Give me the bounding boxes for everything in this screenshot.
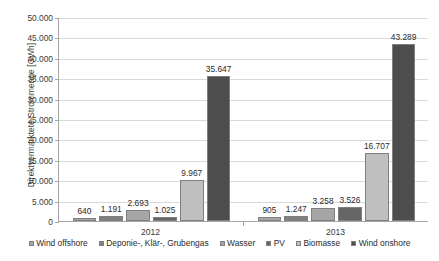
gridline [59,38,428,39]
y-axis-tick [55,222,59,223]
bar-value-label: 905 [262,205,276,215]
legend-item[interactable]: Wasser [220,238,256,248]
legend-item[interactable]: Biomasse [296,238,340,248]
y-axis-tick-label: 50.000 [27,13,53,23]
y-axis-tick-label: 35.000 [27,74,53,84]
bar-value-label: 1.191 [101,204,122,214]
legend-label: PV [274,238,285,248]
bar [258,217,282,221]
y-axis-tick [55,140,59,141]
gridline [59,120,428,121]
bar [126,210,150,221]
y-axis-tick [55,59,59,60]
gridline [59,79,428,80]
legend-swatch-icon [29,241,34,246]
y-axis-tick [55,100,59,101]
chart-legend: Wind offshoreDeponie-, Klär-, GrubengasW… [0,238,439,248]
y-axis-tick [55,18,59,19]
bar-value-label: 16.707 [364,141,390,151]
y-axis-tick-label: 30.000 [27,95,53,105]
bar [365,153,389,221]
bar-value-label: 640 [77,206,91,216]
bar [338,207,362,221]
bar-chart: Direktvermarktete Strommenge [GWh] 50.00… [0,0,439,261]
bar-value-label: 2.693 [128,198,149,208]
y-axis-tick-label: 0 [48,217,53,227]
y-axis-tick-label: 10.000 [27,176,53,186]
bar-value-label: 3.526 [339,195,360,205]
y-axis-tick [55,202,59,203]
bar [73,218,97,221]
gridline [59,59,428,60]
legend-swatch-icon [99,241,104,246]
bar-value-label: 43.289 [391,32,417,42]
bar [180,180,204,221]
gridline [59,18,428,19]
y-axis-tick [55,181,59,182]
y-axis-tick [55,120,59,121]
bar [284,216,308,221]
x-axis-category-label: 2012 [141,227,160,237]
x-axis-category-label: 2013 [326,227,345,237]
bar-value-label: 3.258 [313,196,334,206]
gridline [59,100,428,101]
y-axis-tick-label: 5.000 [32,197,53,207]
legend-label: Wasser [227,238,255,248]
y-axis-tick [55,38,59,39]
legend-swatch-icon [220,241,225,246]
legend-item[interactable]: Wind offshore [29,238,88,248]
legend-label: Wind onshore [359,238,411,248]
legend-label: Wind offshore [36,238,88,248]
y-axis-tick-label: 45.000 [27,33,53,43]
legend-swatch-icon [266,241,271,246]
bar [207,76,231,221]
legend-item[interactable]: PV [266,238,285,248]
bar-value-label: 1.247 [286,204,307,214]
plot-area: 50.00045.00040.00035.00030.00025.00020.0… [58,18,428,222]
bar-value-label: 1.025 [154,205,175,215]
y-axis-tick-label: 15.000 [27,156,53,166]
bar [311,208,335,221]
y-axis-tick-label: 40.000 [27,54,53,64]
y-axis-tick [55,79,59,80]
bar-value-label: 9.967 [181,168,202,178]
y-axis-tick-label: 20.000 [27,135,53,145]
bar [99,216,123,221]
bar [392,44,416,221]
legend-swatch-icon [351,241,356,246]
legend-label: Biomasse [303,238,340,248]
legend-label: Deponie-, Klär-, Grubengas [106,238,208,248]
category-separator [243,222,244,226]
bar [153,217,177,221]
y-axis-tick-label: 25.000 [27,115,53,125]
y-axis-tick [55,161,59,162]
bar-value-label: 35.647 [206,64,232,74]
legend-item[interactable]: Wind onshore [351,238,410,248]
legend-swatch-icon [296,241,301,246]
legend-item[interactable]: Deponie-, Klär-, Grubengas [99,238,209,248]
